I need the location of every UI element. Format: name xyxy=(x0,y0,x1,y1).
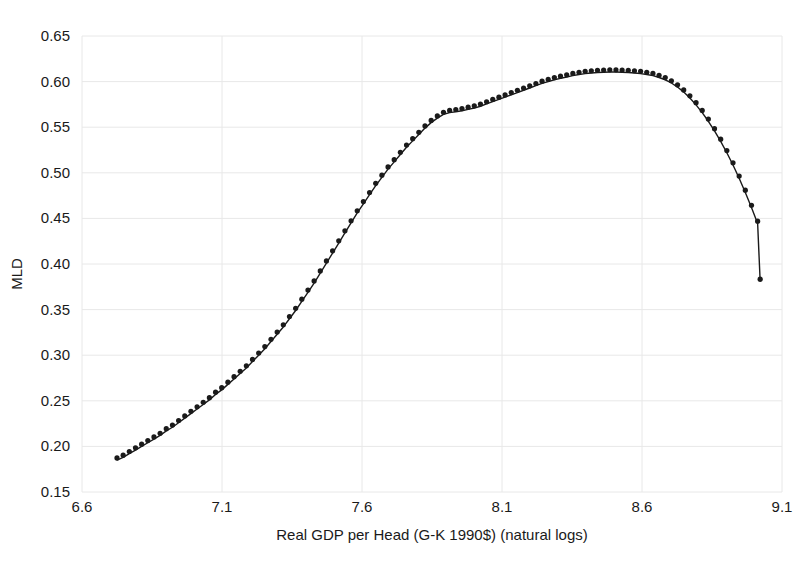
data-point xyxy=(706,116,711,121)
mld-gdp-line-chart: 0.150.200.250.300.350.400.450.500.550.60… xyxy=(0,0,810,565)
data-point xyxy=(188,409,193,414)
data-point xyxy=(194,404,199,409)
data-point xyxy=(681,87,686,92)
data-point xyxy=(225,380,230,385)
data-point xyxy=(410,136,415,141)
data-point xyxy=(275,329,280,334)
data-point xyxy=(724,148,729,153)
data-point xyxy=(490,97,495,102)
data-point xyxy=(361,199,366,204)
data-point xyxy=(539,79,544,84)
data-point xyxy=(151,434,156,439)
data-point xyxy=(570,71,575,76)
data-point xyxy=(305,287,310,292)
data-point xyxy=(256,350,261,355)
data-point xyxy=(441,110,446,115)
data-point xyxy=(416,130,421,135)
x-tick-label: 7.1 xyxy=(212,498,233,515)
data-point xyxy=(238,369,243,374)
data-point xyxy=(700,108,705,113)
data-point xyxy=(312,278,317,283)
data-point xyxy=(324,258,329,263)
data-point xyxy=(576,70,581,75)
data-point xyxy=(176,418,181,423)
data-point xyxy=(127,449,132,454)
data-point xyxy=(182,413,187,418)
data-point xyxy=(527,83,532,88)
data-point xyxy=(650,71,655,76)
data-point xyxy=(644,70,649,75)
data-point xyxy=(447,108,452,113)
data-point xyxy=(231,374,236,379)
data-point xyxy=(583,69,588,74)
data-point xyxy=(318,268,323,273)
data-point xyxy=(552,75,557,80)
y-tick-label: 0.65 xyxy=(41,27,70,44)
data-point xyxy=(601,67,606,72)
data-point xyxy=(293,306,298,311)
data-point xyxy=(373,181,378,186)
data-point xyxy=(484,99,489,104)
data-point xyxy=(367,190,372,195)
data-point xyxy=(743,188,748,193)
data-point xyxy=(737,173,742,178)
data-point xyxy=(638,69,643,74)
data-point xyxy=(755,219,760,224)
y-axis-title: MLD xyxy=(8,258,25,290)
data-point xyxy=(145,438,150,443)
data-point xyxy=(213,390,218,395)
data-point xyxy=(472,103,477,108)
y-tick-label: 0.50 xyxy=(41,164,70,181)
data-point xyxy=(250,357,255,362)
x-axis-title: Real GDP per Head (G-K 1990$) (natural l… xyxy=(276,526,588,543)
data-point xyxy=(459,106,464,111)
x-tick-label: 9.1 xyxy=(772,498,793,515)
data-point xyxy=(478,101,483,106)
x-tick-label: 8.6 xyxy=(632,498,653,515)
chart-background xyxy=(0,0,810,565)
data-point xyxy=(342,228,347,233)
y-tick-label: 0.35 xyxy=(41,301,70,318)
data-point xyxy=(299,297,304,302)
data-point xyxy=(207,395,212,400)
data-point xyxy=(656,73,661,78)
data-point xyxy=(201,400,206,405)
x-tick-label: 7.6 xyxy=(352,498,373,515)
data-point xyxy=(515,88,520,93)
data-point xyxy=(133,445,138,450)
data-point xyxy=(385,164,390,169)
data-point xyxy=(244,363,249,368)
data-point xyxy=(496,95,501,100)
data-point xyxy=(170,422,175,427)
data-point xyxy=(632,68,637,73)
y-tick-label: 0.30 xyxy=(41,346,70,363)
data-point xyxy=(613,67,618,72)
data-point xyxy=(355,208,360,213)
data-point xyxy=(595,68,600,73)
data-point xyxy=(687,93,692,98)
data-point xyxy=(502,92,507,97)
data-point xyxy=(336,238,341,243)
data-point xyxy=(663,75,668,80)
data-point xyxy=(121,453,126,458)
data-point xyxy=(546,77,551,82)
y-tick-label: 0.25 xyxy=(41,392,70,409)
data-point xyxy=(158,431,163,436)
data-point xyxy=(626,68,631,73)
data-point xyxy=(607,67,612,72)
y-tick-label: 0.55 xyxy=(41,118,70,135)
data-point xyxy=(262,344,267,349)
data-point xyxy=(164,426,169,431)
data-point xyxy=(749,203,754,208)
data-point xyxy=(348,218,353,223)
data-point xyxy=(669,78,674,83)
data-point xyxy=(620,67,625,72)
y-tick-label: 0.60 xyxy=(41,73,70,90)
data-point xyxy=(398,150,403,155)
x-tick-label: 8.1 xyxy=(492,498,513,515)
data-point xyxy=(219,385,224,390)
x-tick-label: 6.6 xyxy=(72,498,93,515)
data-point xyxy=(435,113,440,118)
data-point xyxy=(564,72,569,77)
data-point xyxy=(114,455,119,460)
